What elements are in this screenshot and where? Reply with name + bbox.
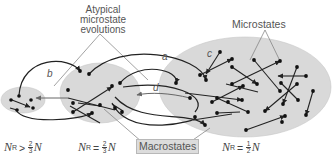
equation-macrostate-3: NR = 12 N bbox=[222, 140, 260, 155]
path-letter-a: a bbox=[162, 51, 168, 62]
path-letter-b: b bbox=[47, 68, 53, 79]
path-letter-c: c bbox=[207, 48, 212, 59]
microstates-label: Microstates bbox=[232, 19, 286, 29]
atypical-evolutions-label: Atypical microstate evolutions bbox=[78, 5, 128, 35]
equation-macrostate-1: NR > 23 N bbox=[4, 140, 42, 155]
macrostates-label: Macrostates bbox=[136, 139, 199, 154]
path-letter-d: d bbox=[153, 82, 159, 93]
macrostate-ellipse-small bbox=[1, 87, 45, 113]
macrostate-ellipse-medium bbox=[60, 63, 140, 123]
equation-macrostate-2: NR = 23 N bbox=[78, 140, 116, 155]
